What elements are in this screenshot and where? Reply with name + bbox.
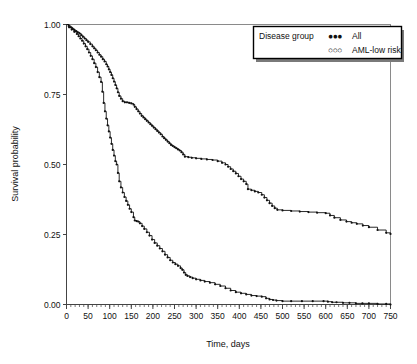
x-tick-label: 450 [254,311,268,321]
x-tick-label: 400 [232,311,246,321]
x-tick-label: 500 [275,311,289,321]
legend-label-aml-low-risk: AML-low risk [352,45,401,55]
x-tick-label: 650 [340,311,354,321]
legend-title: Disease group [259,31,314,41]
legend-label-all: All [352,31,362,41]
x-axis-title: Time, days [206,339,250,349]
x-tick-label: 100 [103,311,117,321]
x-tick-label: 0 [64,311,69,321]
y-tick-label: 1.00 [44,20,61,30]
legend-marker-aml-low-risk: ○○○ [328,45,342,55]
x-tick-label: 350 [211,311,225,321]
y-axis-title: Survival probability [10,126,20,202]
y-tick-label: 0.25 [44,230,61,240]
legend-marker-all: ●●● [328,31,342,41]
kaplan-meier-plot: 0.000.250.500.751.00 0501001502002503003… [0,0,417,364]
y-tick-label: 0.50 [44,160,61,170]
x-tick-label: 600 [319,311,333,321]
survival-curve-figure: 0.000.250.500.751.00 0501001502002503003… [0,0,417,364]
x-tick-label: 300 [189,311,203,321]
x-tick-label: 200 [146,311,160,321]
legend[interactable]: Disease group ●●● All ○○○ AML-low risk [254,27,405,63]
y-tick-label: 0.75 [44,90,61,100]
y-tick-label: 0.00 [44,300,61,310]
x-tick-label: 50 [83,311,93,321]
x-tick-label: 550 [297,311,311,321]
x-tick-label: 750 [383,311,397,321]
x-tick-label: 250 [167,311,181,321]
x-tick-label: 150 [124,311,138,321]
x-tick-label: 700 [362,311,376,321]
